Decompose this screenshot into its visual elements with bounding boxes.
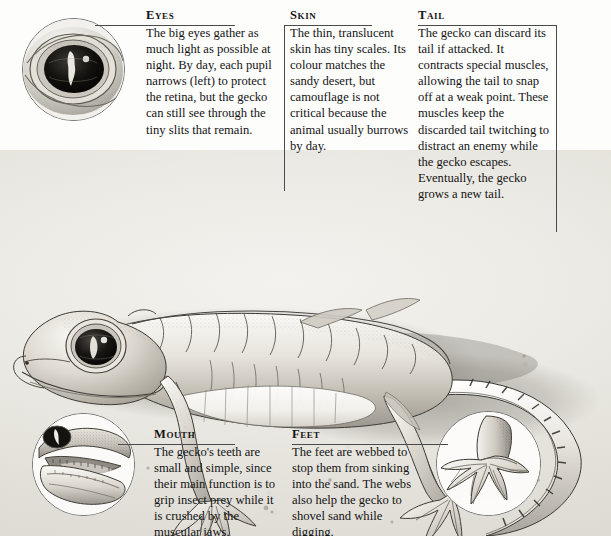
callout-eyes-body: The big eyes gather as much light as pos…: [146, 23, 272, 138]
callout-feet: Feet The feet are webbed to stop them fr…: [292, 427, 421, 536]
callout-mouth-heading: Mouth: [154, 427, 284, 442]
callout-mouth: Mouth The gecko's teeth are small and si…: [154, 427, 284, 536]
callout-skin-heading: Skin: [290, 8, 410, 23]
callout-tail-body: The gecko can discard its tail if attack…: [418, 23, 551, 202]
mouth-detail-inset: [32, 413, 135, 516]
callout-feet-heading: Feet: [292, 427, 421, 442]
gecko-eye-closeup-drawing: [23, 19, 124, 120]
callout-skin: Skin The thin, translucent skin has tiny…: [290, 8, 410, 154]
tail-leader-drop: [556, 25, 557, 232]
eye-detail-inset: [22, 18, 125, 121]
callout-eyes: Eyes The big eyes gather as much light a…: [146, 8, 272, 138]
foot-detail-inset: [436, 411, 541, 516]
gecko-open-mouth-drawing: [33, 414, 134, 515]
skin-leader-drop: [284, 25, 285, 191]
callout-mouth-body: The gecko's teeth are small and simple, …: [154, 442, 284, 536]
callout-tail: Tail The gecko can discard its tail if a…: [418, 8, 551, 202]
callout-tail-heading: Tail: [418, 8, 551, 23]
callout-eyes-heading: Eyes: [146, 8, 272, 23]
anatomy-plate-page: Eyes The big eyes gather as much light a…: [0, 0, 611, 536]
callout-skin-body: The thin, translucent skin has tiny scal…: [290, 23, 410, 154]
callout-feet-body: The feet are webbed to stop them from si…: [292, 442, 421, 536]
gecko-webbed-foot-drawing: [437, 412, 540, 515]
